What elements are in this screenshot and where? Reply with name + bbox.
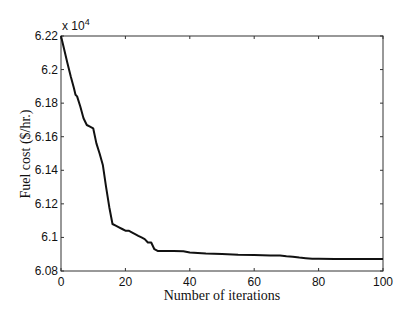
y-axis-multiplier: x 104 [62, 17, 90, 33]
y-tick-label: 6.18 [35, 96, 59, 110]
x-tick-label: 60 [248, 275, 262, 289]
y-tick-label: 6.2 [41, 63, 58, 77]
y-tick-label: 6.1 [41, 230, 58, 244]
x-tick-label: 100 [373, 275, 393, 289]
y-tick-label: 6.12 [35, 197, 59, 211]
x-tick-labels: 020406080100 [58, 275, 394, 289]
y-axis-title: Fuel cost ($/hr.) [18, 109, 34, 198]
plot-border [61, 36, 383, 271]
fuel-cost-chart: 020406080100 6.086.16.126.146.166.186.26… [0, 0, 409, 322]
x-tick-label: 0 [58, 275, 65, 289]
axis-ticks [61, 36, 383, 271]
x-tick-label: 40 [183, 275, 197, 289]
x-tick-label: 20 [119, 275, 133, 289]
plot-area [61, 36, 383, 271]
y-tick-label: 6.22 [35, 29, 59, 43]
y-tick-label: 6.08 [35, 264, 59, 278]
y-tick-labels: 6.086.16.126.146.166.186.26.22 [35, 29, 59, 278]
y-tick-label: 6.16 [35, 130, 59, 144]
x-axis-title: Number of iterations [164, 288, 281, 303]
x-tick-label: 80 [312, 275, 326, 289]
fuel-cost-line [61, 36, 383, 259]
y-tick-label: 6.14 [35, 163, 59, 177]
